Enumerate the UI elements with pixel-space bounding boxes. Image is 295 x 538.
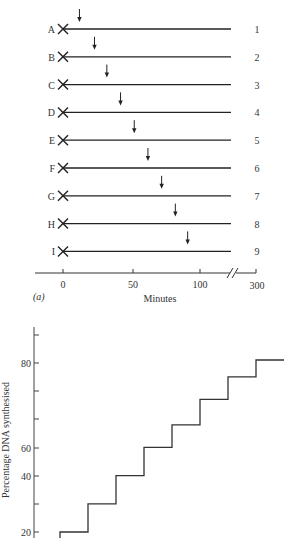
timeline-row: F6 — [49, 148, 259, 174]
y-tick-80: 80 — [21, 358, 31, 369]
row-label: A — [48, 24, 56, 35]
figure: A1B2C3D4E5F6G7H8I9 0 50 100 300 (a) Minu… — [0, 0, 295, 538]
timeline-row: A1 — [48, 9, 260, 35]
timeline-row: C3 — [48, 65, 259, 91]
row-number: 7 — [255, 191, 260, 202]
step-line — [60, 360, 284, 538]
row-label: E — [49, 135, 55, 146]
row-label: I — [52, 246, 55, 257]
panel-label: (a) — [33, 291, 45, 303]
y-tick-20: 20 — [21, 527, 31, 538]
x-tick-100: 100 — [193, 279, 208, 290]
y-axis — [34, 327, 39, 538]
x-tick-50: 50 — [128, 279, 138, 290]
row-number: 9 — [255, 246, 260, 257]
row-label: C — [48, 80, 55, 91]
row-number: 2 — [255, 52, 260, 63]
row-number: 1 — [255, 24, 260, 35]
y-axis-label: Percentage DNA synthesised — [0, 382, 11, 498]
row-number: 3 — [255, 80, 260, 91]
y-tick-40: 40 — [21, 471, 31, 482]
timeline-row: I9 — [52, 231, 260, 257]
x-axis-label: Minutes — [144, 293, 177, 304]
timeline-row: H8 — [48, 204, 260, 230]
row-number: 8 — [255, 219, 260, 230]
row-label: F — [49, 163, 55, 174]
timeline-row: D4 — [48, 92, 260, 118]
row-label: H — [48, 219, 55, 230]
timeline-row: E5 — [49, 120, 260, 146]
x-tick-0: 0 — [61, 279, 66, 290]
row-number: 5 — [255, 135, 260, 146]
timeline-row: G7 — [48, 176, 260, 202]
y-tick-60: 60 — [21, 443, 31, 454]
row-label: G — [48, 191, 55, 202]
timeline-row: B2 — [48, 37, 259, 63]
timeline-rows: A1B2C3D4E5F6G7H8I9 — [48, 9, 260, 257]
row-number: 4 — [255, 107, 260, 118]
minutes-axis — [35, 268, 256, 278]
row-label: D — [48, 107, 55, 118]
row-number: 6 — [255, 163, 260, 174]
x-tick-300: 300 — [250, 280, 265, 291]
row-label: B — [48, 52, 55, 63]
